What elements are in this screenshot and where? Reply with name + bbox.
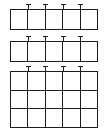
grid-cell[interactable] <box>63 90 80 109</box>
grid-cell[interactable] <box>63 10 80 30</box>
grid-cell[interactable] <box>45 72 62 91</box>
table-row <box>11 72 98 91</box>
grid-cell[interactable] <box>45 10 62 30</box>
grid-cell[interactable] <box>63 109 80 128</box>
grid-cell[interactable] <box>28 42 45 62</box>
grid-table <box>10 9 98 30</box>
grid-cell[interactable] <box>28 10 45 30</box>
diagram-canvas <box>0 0 107 136</box>
grid-block-3 <box>10 71 98 128</box>
grid-cell[interactable] <box>80 10 97 30</box>
grid-cell[interactable] <box>63 72 80 91</box>
grid-cell[interactable] <box>80 90 97 109</box>
table-row <box>11 90 98 109</box>
grid-cell[interactable] <box>80 72 97 91</box>
table-row <box>11 42 98 62</box>
table-row <box>11 109 98 128</box>
grid-cell[interactable] <box>11 42 28 62</box>
grid-block-1 <box>10 9 98 30</box>
grid-cell[interactable] <box>28 72 45 91</box>
grid-table <box>10 41 98 62</box>
table-row <box>11 10 98 30</box>
grid-cell[interactable] <box>28 90 45 109</box>
grid-cell[interactable] <box>80 109 97 128</box>
grid-cell[interactable] <box>80 42 97 62</box>
grid-cell[interactable] <box>45 42 62 62</box>
grid-cell[interactable] <box>28 109 45 128</box>
grid-block-2 <box>10 41 98 62</box>
grid-cell[interactable] <box>11 10 28 30</box>
grid-cell[interactable] <box>45 109 62 128</box>
grid-cell[interactable] <box>11 72 28 91</box>
grid-cell[interactable] <box>11 90 28 109</box>
grid-table <box>10 71 98 128</box>
grid-cell[interactable] <box>45 90 62 109</box>
grid-cell[interactable] <box>11 109 28 128</box>
grid-cell[interactable] <box>63 42 80 62</box>
